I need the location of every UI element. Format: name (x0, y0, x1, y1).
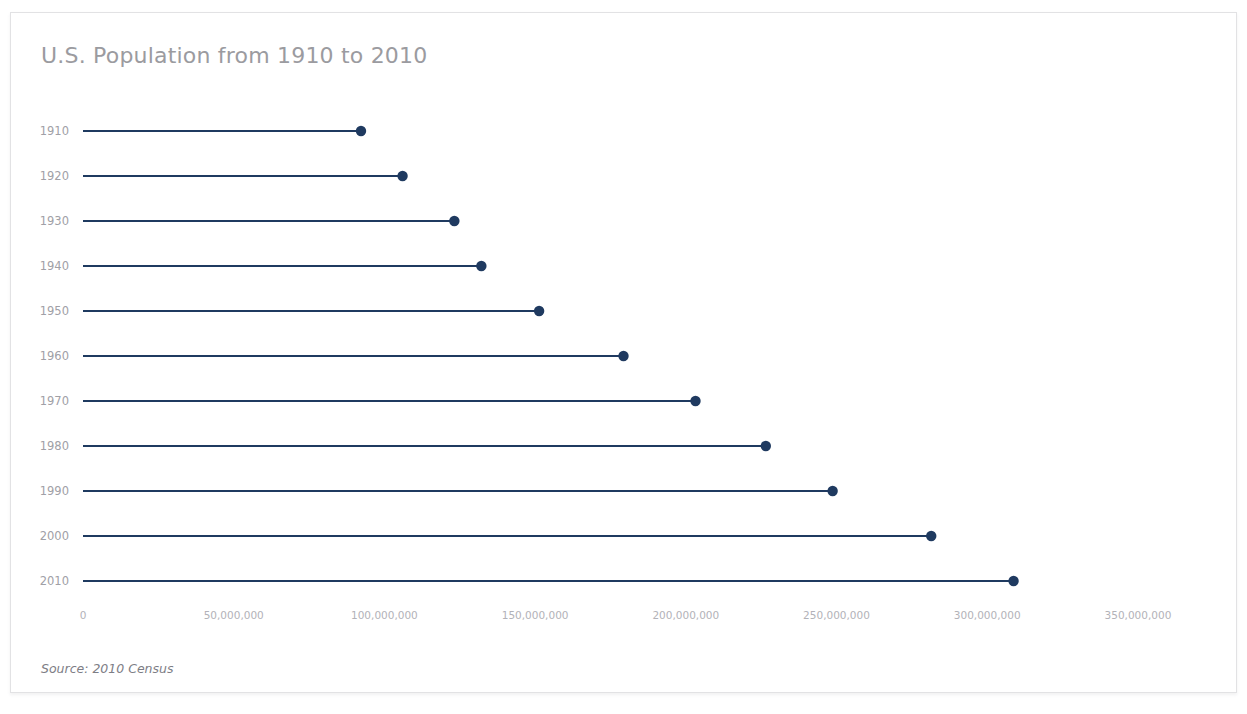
lollipop-chart-svg: 1910192019301940195019601970198019902000… (11, 13, 1238, 694)
lollipop-dot[interactable] (397, 171, 407, 181)
y-axis-tick-label: 1930 (40, 214, 69, 228)
lollipop-dot[interactable] (618, 351, 628, 361)
lollipop-dot[interactable] (476, 261, 486, 271)
lollipop-dot[interactable] (356, 126, 366, 136)
y-axis-tick-label: 1990 (40, 484, 69, 498)
chart-row: 1940 (40, 259, 487, 273)
y-axis-tick-label: 2010 (40, 574, 69, 588)
chart-row: 1980 (40, 439, 771, 453)
x-axis-tick-label: 250,000,000 (803, 609, 870, 621)
y-axis-tick-label: 1950 (40, 304, 69, 318)
y-axis-tick-label: 2000 (40, 529, 69, 543)
y-axis-tick-label: 1980 (40, 439, 69, 453)
chart-row: 1950 (40, 304, 545, 318)
lollipop-dot[interactable] (827, 486, 837, 496)
chart-row: 2010 (40, 574, 1019, 588)
x-axis-tick-label: 0 (80, 609, 87, 621)
lollipop-dot[interactable] (449, 216, 459, 226)
chart-row: 1920 (40, 169, 408, 183)
chart-row: 1960 (40, 349, 629, 363)
y-axis-tick-label: 1920 (40, 169, 69, 183)
lollipop-dot[interactable] (761, 441, 771, 451)
chart-row: 2000 (40, 529, 937, 543)
x-axis-tick-label: 350,000,000 (1105, 609, 1172, 621)
lollipop-dot[interactable] (1008, 576, 1018, 586)
y-axis-tick-label: 1960 (40, 349, 69, 363)
x-axis-tick-label: 300,000,000 (954, 609, 1021, 621)
x-axis-tick-label: 50,000,000 (204, 609, 264, 621)
lollipop-dot[interactable] (534, 306, 544, 316)
x-axis-tick-label: 200,000,000 (652, 609, 719, 621)
chart-row: 1990 (40, 484, 838, 498)
chart-row: 1910 (40, 124, 366, 138)
source-note: Source: 2010 Census (41, 661, 173, 676)
chart-row: 1930 (40, 214, 460, 228)
y-axis-tick-label: 1970 (40, 394, 69, 408)
x-axis-tick-label: 100,000,000 (351, 609, 418, 621)
lollipop-dot[interactable] (926, 531, 936, 541)
lollipop-dot[interactable] (690, 396, 700, 406)
plot-area: 1910192019301940195019601970198019902000… (11, 13, 1238, 694)
y-axis-tick-label: 1910 (40, 124, 69, 138)
chart-card: U.S. Population from 1910 to 2010 191019… (10, 12, 1237, 693)
chart-row: 1970 (40, 394, 701, 408)
x-axis-tick-label: 150,000,000 (502, 609, 569, 621)
y-axis-tick-label: 1940 (40, 259, 69, 273)
